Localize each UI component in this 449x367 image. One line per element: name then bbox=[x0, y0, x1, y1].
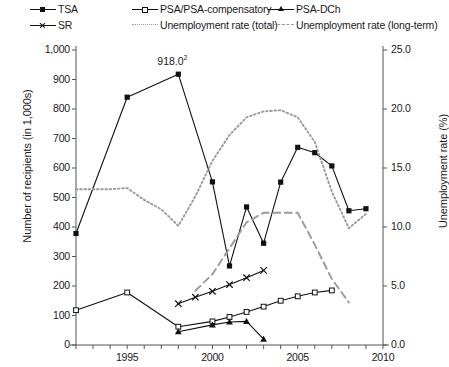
y-axis-left-tick-label: 300 bbox=[30, 250, 70, 262]
series-psa-dch bbox=[175, 318, 267, 342]
x-axis-tick-label: 2010 bbox=[363, 351, 403, 363]
data-marker bbox=[329, 288, 334, 293]
y-axis-right-tick-label: 20.0 bbox=[391, 102, 431, 114]
series-line bbox=[76, 74, 366, 266]
data-marker bbox=[312, 290, 317, 295]
y-axis-left-tick-label: 100 bbox=[30, 309, 70, 321]
x-axis-tick-label: 1995 bbox=[107, 351, 147, 363]
data-marker bbox=[278, 180, 283, 185]
data-marker bbox=[346, 208, 351, 213]
y-axis-right-tick-label: 25.0 bbox=[391, 43, 431, 55]
data-marker bbox=[244, 204, 249, 209]
x-axis-tick-label: 2005 bbox=[278, 351, 318, 363]
x-axis-tick-label: 2000 bbox=[192, 351, 232, 363]
data-point-label: 918.02 bbox=[157, 54, 187, 67]
series-sr bbox=[175, 267, 267, 307]
data-marker bbox=[329, 163, 334, 168]
data-marker bbox=[261, 304, 266, 309]
data-marker bbox=[295, 145, 300, 150]
data-marker bbox=[312, 150, 317, 155]
data-point-value: 918.0 bbox=[157, 55, 183, 67]
data-marker bbox=[244, 310, 249, 315]
data-marker bbox=[125, 290, 130, 295]
data-marker bbox=[278, 298, 283, 303]
y-axis-left-tick-label: 0 bbox=[30, 338, 70, 350]
data-marker bbox=[210, 179, 215, 184]
footnote-marker: 2 bbox=[184, 54, 188, 61]
series-line bbox=[178, 270, 263, 303]
data-marker bbox=[74, 308, 79, 313]
y-axis-right-tick-label: 0.0 bbox=[391, 338, 431, 350]
y-axis-left-tick-label: 200 bbox=[30, 279, 70, 291]
series-unemployment-rate-total- bbox=[76, 110, 366, 228]
series-line bbox=[178, 321, 263, 339]
series-line bbox=[76, 290, 332, 326]
y-axis-right-tick-label: 5.0 bbox=[391, 279, 431, 291]
data-marker bbox=[363, 206, 368, 211]
y-axis-left-tick-label: 700 bbox=[30, 132, 70, 144]
y-axis-right-title: Unemployment rate (%) bbox=[437, 46, 449, 296]
data-marker bbox=[227, 263, 232, 268]
y-axis-left-tick-label: 1,000 bbox=[30, 43, 70, 55]
y-axis-left-tick-label: 800 bbox=[30, 102, 70, 114]
y-axis-left-tick-label: 400 bbox=[30, 220, 70, 232]
data-marker bbox=[176, 72, 181, 77]
y-axis-right-tick-label: 10.0 bbox=[391, 220, 431, 232]
data-marker bbox=[261, 241, 266, 246]
series-line bbox=[76, 110, 366, 228]
y-axis-left-tick-label: 600 bbox=[30, 161, 70, 173]
data-marker bbox=[73, 231, 78, 236]
y-axis-left-tick-label: 500 bbox=[30, 191, 70, 203]
y-axis-right-tick-label: 15.0 bbox=[391, 161, 431, 173]
y-axis-left-tick-label: 900 bbox=[30, 73, 70, 85]
data-marker bbox=[295, 294, 300, 299]
data-marker bbox=[125, 95, 130, 100]
